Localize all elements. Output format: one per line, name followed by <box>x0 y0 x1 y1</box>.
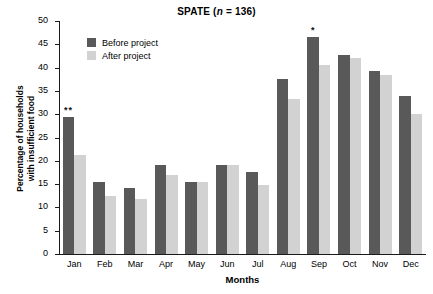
chart-legend: Before projectAfter project <box>87 36 158 62</box>
x-tick-label-mar: Mar <box>120 259 151 269</box>
x-tick-label-apr: Apr <box>151 259 182 269</box>
bar-mar-before <box>124 188 136 254</box>
bar-nov-before <box>369 71 381 254</box>
x-tick-label-jun: Jun <box>212 259 243 269</box>
y-tick-label-50: 50 <box>38 15 48 25</box>
legend-swatch-before-project <box>87 38 96 47</box>
y-tick-label-15: 15 <box>38 178 48 188</box>
chart-title: SPATE (n = 136) <box>0 6 433 17</box>
x-tick-label-jan: Jan <box>59 259 90 269</box>
y-tick-label-10: 10 <box>38 201 48 211</box>
legend-label-after-project: After project <box>102 51 151 61</box>
bar-sep-after <box>319 65 331 254</box>
y-axis-label: Percentage of households with insufficie… <box>15 39 36 239</box>
x-tick-label-oct: Oct <box>334 259 365 269</box>
bar-oct-after <box>350 58 362 254</box>
y-tick-label-45: 45 <box>38 38 48 48</box>
y-tick-5: 5 <box>55 231 59 232</box>
x-tick-label-jul: Jul <box>243 259 274 269</box>
bar-may-after <box>197 182 209 254</box>
y-tick-45: 45 <box>55 44 59 45</box>
bar-jan-before <box>63 117 75 254</box>
y-axis-label-line-2: with insufficient food <box>25 39 36 239</box>
y-axis-label-line-1: Percentage of households <box>15 39 26 239</box>
y-tick-10: 10 <box>55 207 59 208</box>
y-tick-label-25: 25 <box>38 132 48 142</box>
bar-apr-before <box>155 165 167 254</box>
y-tick-label-40: 40 <box>38 62 48 72</box>
bar-jun-before <box>216 165 228 254</box>
chart-title-suffix: = 136) <box>223 6 256 17</box>
y-tick-label-0: 0 <box>43 248 48 258</box>
bar-aug-after <box>288 99 300 254</box>
y-tick-20: 20 <box>55 161 59 162</box>
chart-title-prefix: SPATE ( <box>177 6 216 17</box>
x-tick-label-dec: Dec <box>395 259 426 269</box>
x-tick-label-may: May <box>181 259 212 269</box>
y-tick-35: 35 <box>55 91 59 92</box>
bar-nov-after <box>380 75 392 254</box>
y-tick-50: 50 <box>55 21 59 22</box>
significance-marker-jan: ** <box>63 106 75 115</box>
x-tick-label-aug: Aug <box>273 259 304 269</box>
significance-marker-sep: * <box>307 26 319 35</box>
y-tick-0: 0 <box>55 254 59 255</box>
bar-jun-after <box>227 165 239 254</box>
x-tick-label-feb: Feb <box>90 259 121 269</box>
bar-aug-before <box>277 79 289 254</box>
bar-jan-after <box>74 155 86 254</box>
bar-dec-before <box>399 96 411 254</box>
x-axis-line <box>59 254 426 255</box>
x-axis-label: Months <box>59 274 426 285</box>
bar-dec-after <box>411 114 423 254</box>
y-tick-25: 25 <box>55 138 59 139</box>
y-tick-30: 30 <box>55 114 59 115</box>
bar-apr-after <box>166 175 178 254</box>
x-tick-label-nov: Nov <box>365 259 396 269</box>
bar-jul-before <box>246 172 258 254</box>
bar-sep-before <box>307 37 319 254</box>
bar-jul-after <box>258 185 270 254</box>
y-tick-label-5: 5 <box>43 225 48 235</box>
y-tick-40: 40 <box>55 68 59 69</box>
y-tick-label-30: 30 <box>38 108 48 118</box>
chart-figure: SPATE (n = 136) Percentage of households… <box>0 0 433 294</box>
y-tick-label-20: 20 <box>38 155 48 165</box>
y-tick-label-35: 35 <box>38 85 48 95</box>
legend-label-before-project: Before project <box>102 38 158 48</box>
y-axis-line <box>59 21 60 255</box>
x-tick-label-sep: Sep <box>304 259 335 269</box>
bar-feb-before <box>93 182 105 254</box>
bar-mar-after <box>135 199 147 254</box>
bar-may-before <box>185 182 197 254</box>
legend-swatch-after-project <box>87 51 96 60</box>
bar-oct-before <box>338 55 350 254</box>
bar-feb-after <box>105 196 117 254</box>
legend-item-after-project: After project <box>87 49 158 62</box>
legend-item-before-project: Before project <box>87 36 158 49</box>
y-tick-15: 15 <box>55 184 59 185</box>
